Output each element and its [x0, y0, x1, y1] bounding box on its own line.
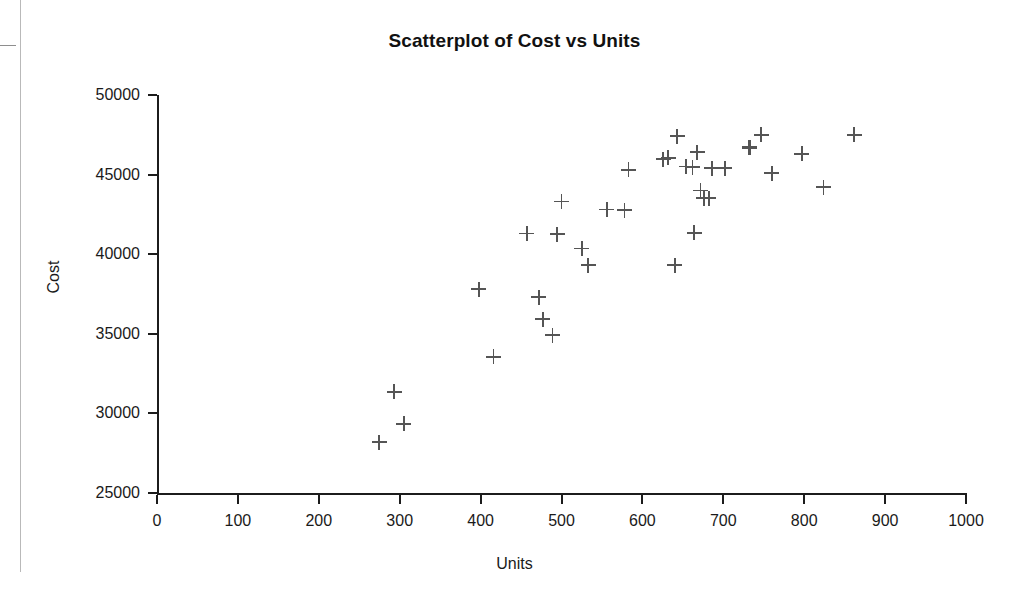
x-axis-tick	[965, 495, 967, 504]
x-axis-tick-label: 800	[764, 511, 844, 531]
data-point-marker	[554, 194, 569, 209]
x-axis-tick-label-text: 900	[845, 511, 925, 531]
data-point-marker	[545, 328, 560, 343]
x-axis-tick	[318, 495, 320, 504]
x-axis-tick-label: 300	[360, 511, 440, 531]
y-axis-tick-label: 45000	[60, 167, 140, 183]
x-axis-tick-label: 600	[602, 511, 682, 531]
x-axis-tick	[803, 495, 805, 504]
y-axis-tick-label: 40000	[60, 246, 140, 262]
data-point-marker	[693, 183, 708, 198]
data-point-marker	[667, 258, 682, 273]
data-point-marker	[621, 162, 636, 177]
y-axis-tick	[148, 253, 157, 255]
data-point-marker	[531, 290, 546, 305]
x-axis-tick-label-text: 100	[198, 511, 278, 531]
scatterplot-chart: Scatterplot of Cost vs Units 25000300003…	[0, 0, 1029, 595]
x-axis-tick-label-text: 600	[602, 511, 682, 531]
x-axis-tick	[884, 495, 886, 504]
data-point-marker	[742, 140, 757, 155]
data-point-marker	[794, 146, 809, 161]
x-axis-tick-label-text: 800	[764, 511, 844, 531]
x-axis-tick	[399, 495, 401, 504]
data-point-marker	[847, 127, 862, 142]
y-axis-tick-label: 30000	[60, 405, 140, 421]
data-point-marker	[535, 312, 550, 327]
y-axis-tick	[148, 333, 157, 335]
x-axis-tick	[641, 495, 643, 504]
data-point-marker	[599, 202, 614, 217]
x-axis-tick	[561, 495, 563, 504]
y-axis-tick	[148, 412, 157, 414]
y-axis-tick-label-text: 45000	[62, 167, 140, 183]
x-axis-tick-label: 900	[845, 511, 925, 531]
data-point-marker	[656, 152, 671, 167]
y-axis-tick-label-text: 40000	[62, 246, 140, 262]
x-axis-tick-label: 1000	[926, 511, 1006, 531]
y-axis-tick-label: 35000	[60, 326, 140, 342]
data-point-marker	[661, 150, 676, 165]
x-axis-tick	[237, 495, 239, 504]
y-axis-tick	[148, 492, 157, 494]
y-axis-tick	[148, 174, 157, 176]
data-point-marker	[550, 227, 565, 242]
data-point-marker	[685, 160, 700, 175]
y-axis-tick-label-text: 30000	[62, 405, 140, 421]
data-point-marker	[670, 129, 685, 144]
x-axis-tick	[480, 495, 482, 504]
data-point-marker	[764, 166, 779, 181]
data-point-marker	[486, 349, 501, 364]
data-point-marker	[717, 161, 732, 176]
data-point-marker	[387, 384, 402, 399]
x-axis-tick-label-text: 0	[117, 511, 197, 531]
y-axis-title: Cost	[45, 237, 63, 317]
y-axis-tick-label-text: 35000	[62, 326, 140, 342]
data-point-marker	[574, 241, 589, 256]
x-axis-tick-label: 200	[279, 511, 359, 531]
data-point-marker	[679, 159, 694, 174]
data-point-marker	[471, 282, 486, 297]
x-axis-title: Units	[0, 555, 1029, 573]
data-point-marker	[754, 127, 769, 142]
data-point-marker	[701, 191, 716, 206]
y-axis-tick-label: 25000	[60, 485, 140, 501]
x-axis-tick-label: 400	[441, 511, 521, 531]
x-axis-tick-label-text: 700	[683, 511, 763, 531]
x-axis-tick-label-text: 1000	[926, 511, 1006, 531]
data-point-marker	[396, 416, 411, 431]
data-point-marker	[696, 191, 711, 206]
x-axis-tick-label: 0	[117, 511, 197, 531]
x-axis-tick-label-text: 400	[441, 511, 521, 531]
data-point-marker	[816, 180, 831, 195]
chart-title: Scatterplot of Cost vs Units	[0, 30, 1029, 52]
x-axis-tick-label-text: 300	[360, 511, 440, 531]
y-axis-tick-label: 50000	[60, 87, 140, 103]
x-axis-tick-label: 700	[683, 511, 763, 531]
data-point-marker	[372, 435, 387, 450]
data-point-marker	[519, 226, 534, 241]
x-axis-tick-label-text: 500	[522, 511, 602, 531]
y-axis-tick-label-text: 50000	[62, 87, 140, 103]
data-point-marker	[617, 203, 632, 218]
data-point-marker	[687, 225, 702, 240]
x-axis-tick	[156, 495, 158, 504]
data-point-marker	[581, 258, 596, 273]
x-axis-tick-label: 100	[198, 511, 278, 531]
x-axis-tick	[722, 495, 724, 504]
y-axis-tick-label-text: 25000	[62, 485, 140, 501]
x-axis-tick-label: 500	[522, 511, 602, 531]
data-point-marker	[704, 161, 719, 176]
plot-area	[157, 95, 966, 493]
y-axis-tick	[148, 94, 157, 96]
x-axis-tick-label-text: 200	[279, 511, 359, 531]
data-point-marker	[690, 145, 705, 160]
